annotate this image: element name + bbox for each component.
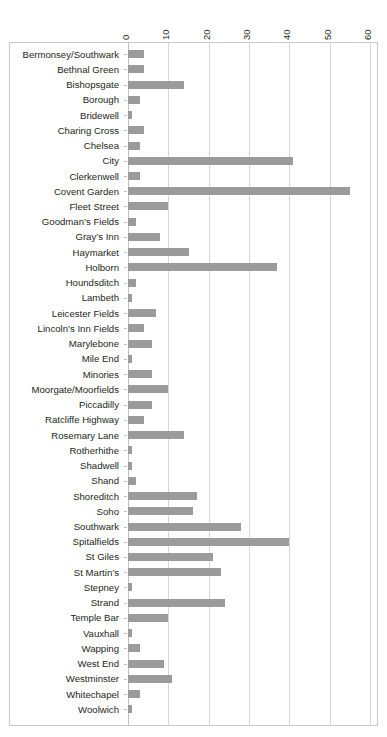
bar [128,81,184,89]
y-tick-mark [124,694,127,695]
bar [128,248,189,256]
category-label: Spitalfields [10,536,119,547]
y-tick-mark [124,237,127,238]
bar-track [128,534,377,549]
category-label: Wapping [10,643,119,654]
bar [128,218,136,226]
y-tick-mark [124,69,127,70]
bar-row: West End [10,656,377,671]
plot-area: Bermonsey/SouthwarkBethnal GreenBishopsg… [9,42,378,726]
y-tick-mark [124,435,127,436]
bar [128,65,144,73]
bar-track [128,290,377,305]
bar-track [128,229,377,244]
bar-track [128,260,377,275]
bar-track [128,687,377,702]
bar-row: Westminster [10,671,377,686]
y-tick-mark [124,191,127,192]
y-tick-mark [124,389,127,390]
category-label: Holborn [10,262,119,273]
bar-track [128,549,377,564]
bar-track [128,565,377,580]
bar-row: Shoreditch [10,488,377,503]
bar-track [128,306,377,321]
bar [128,142,140,150]
y-tick-mark [124,222,127,223]
category-label: West End [10,658,119,669]
bar [128,523,241,531]
bar-row: Covent Garden [10,184,377,199]
bar [128,111,132,119]
bar-row: Shadwell [10,458,377,473]
bar [128,309,156,317]
category-label: Vauxhall [10,628,119,639]
bar-row: Houndsditch [10,275,377,290]
bar-track [128,702,377,717]
bar-track [128,382,377,397]
y-tick-mark [124,420,127,421]
category-label: Shand [10,475,119,486]
y-tick-mark [124,283,127,284]
category-label: Rosemary Lane [10,430,119,441]
y-tick-mark [124,146,127,147]
bar-row: Bermonsey/Southwark [10,47,377,62]
bar-track [128,610,377,625]
bar-track [128,427,377,442]
bar [128,416,144,424]
category-label: Shoreditch [10,491,119,502]
bar [128,263,277,271]
y-tick-mark [124,648,127,649]
bar-row: Holborn [10,260,377,275]
bar-track [128,519,377,534]
y-tick-mark [124,54,127,55]
y-tick-mark [124,206,127,207]
bar [128,96,140,104]
bar-track [128,336,377,351]
category-label: Temple Bar [10,612,119,623]
bar [128,462,132,470]
category-label: Lincoln’s Inn Fields [10,323,119,334]
bar [128,583,132,591]
category-label: Chelsea [10,140,119,151]
bar [128,401,152,409]
y-tick-mark [124,344,127,345]
bar-track [128,412,377,427]
bar [128,614,168,622]
bar-track [128,367,377,382]
y-tick-mark [124,450,127,451]
bar-row: Marylebone [10,336,377,351]
bar [128,370,152,378]
bar-track [128,138,377,153]
bar-row: Spitalfields [10,534,377,549]
category-label: Southwark [10,521,119,532]
bar-track [128,443,377,458]
bar-row: Clerkenwell [10,168,377,183]
category-label: Rotherhithe [10,445,119,456]
bar-row: City [10,153,377,168]
y-tick-mark [124,374,127,375]
bar [128,629,132,637]
category-label: Fleet Street [10,201,119,212]
bar-row: Leicester Fields [10,306,377,321]
bar-track [128,351,377,366]
bar-row: Strand [10,595,377,610]
bar-track [128,92,377,107]
bar-row: Haymarket [10,245,377,260]
category-label: Haymarket [10,247,119,258]
y-tick-mark [124,587,127,588]
bar [128,644,140,652]
bar-track [128,153,377,168]
bar [128,446,132,454]
bar-row: Borough [10,92,377,107]
bar [128,279,136,287]
y-tick-mark [124,603,127,604]
category-label: Charing Cross [10,125,119,136]
bar-row: Whitechapel [10,687,377,702]
bar-track [128,123,377,138]
category-label: Covent Garden [10,186,119,197]
bar-row: Temple Bar [10,610,377,625]
bar-row: Piccadilly [10,397,377,412]
bar [128,385,168,393]
bar-rows: Bermonsey/SouthwarkBethnal GreenBishopsg… [10,43,377,725]
category-label: St Martin’s [10,567,119,578]
